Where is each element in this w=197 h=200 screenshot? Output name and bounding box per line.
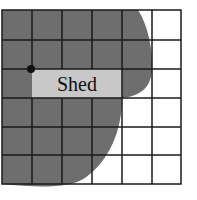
shed-label: Shed — [57, 73, 97, 95]
corner-dot — [27, 65, 35, 73]
grid-diagram: Shed — [0, 0, 197, 200]
